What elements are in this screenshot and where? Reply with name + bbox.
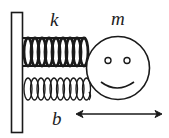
mass-spring-damper-diagram: k m b [0, 0, 169, 138]
wall [12, 13, 23, 133]
spring-k [23, 38, 88, 66]
mass-circle [87, 37, 150, 100]
mass-smiley [87, 37, 150, 100]
label-m: m [111, 8, 125, 29]
damper-spring-b [24, 66, 91, 100]
label-b: b [52, 108, 62, 129]
label-k: k [50, 9, 59, 30]
motion-arrow [76, 111, 162, 118]
